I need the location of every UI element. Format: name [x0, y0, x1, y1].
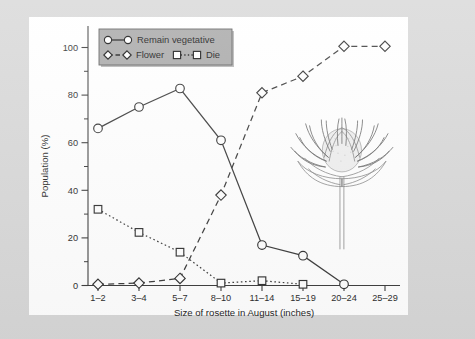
chart-legend[interactable]: Remain vegetative Flower Die: [99, 29, 234, 67]
data-point-marker: [94, 124, 103, 133]
data-point-marker: [217, 136, 226, 145]
y-tick-label: 60: [68, 138, 78, 148]
data-point-marker: [258, 241, 267, 250]
legend-label: Flower: [136, 49, 164, 60]
data-point-marker: [340, 280, 349, 289]
figure-root: 0 20 40 60 80 100 Population (%) 1–2 3–4: [0, 0, 475, 339]
thistle-flower-icon: [291, 118, 393, 249]
data-point-marker: [299, 251, 308, 260]
legend-item-die[interactable]: Die: [173, 49, 220, 60]
x-tick-label: 8–10: [211, 293, 231, 303]
data-point-marker: [216, 190, 226, 200]
open-circle-icon: [124, 36, 131, 43]
data-point-marker: [134, 278, 144, 288]
x-tick-label: 20–24: [331, 293, 357, 303]
data-point-marker: [175, 273, 185, 283]
y-tick-label: 0: [73, 281, 78, 291]
data-point-marker: [135, 229, 143, 237]
y-tick-label: 40: [68, 186, 78, 196]
data-point-marker: [380, 41, 390, 51]
data-point-marker: [176, 84, 185, 93]
open-square-icon: [193, 51, 200, 58]
x-tick-label: 25–29: [372, 293, 398, 303]
x-tick-label: 5–7: [172, 293, 187, 303]
data-point-marker: [93, 279, 103, 289]
legend-label: Remain vegetative: [137, 34, 215, 45]
x-axis: 1–2 3–4 5–7 8–10 11–14 15–19 20–24 25–29…: [88, 286, 400, 319]
open-square-icon: [173, 51, 180, 58]
y-tick-label: 100: [63, 43, 78, 53]
y-axis-title: Population (%): [39, 135, 50, 198]
data-point-marker: [135, 103, 144, 112]
data-point-marker: [299, 281, 307, 289]
y-tick-label: 80: [68, 90, 78, 100]
data-point-marker: [339, 41, 349, 51]
x-axis-title: Size of rosette in August (inches): [174, 307, 314, 318]
data-point-marker: [298, 71, 308, 81]
x-tick-label: 1–2: [90, 293, 105, 303]
y-axis: 0 20 40 60 80 100 Population (%): [39, 26, 88, 291]
data-point-marker: [258, 277, 266, 285]
line-chart: 0 20 40 60 80 100 Population (%) 1–2 3–4: [0, 0, 475, 339]
x-tick-label: 15–19: [290, 293, 316, 303]
data-point-marker: [94, 206, 102, 214]
data-point-marker: [257, 88, 267, 98]
x-tick-label: 11–14: [250, 293, 275, 303]
data-point-marker: [176, 248, 184, 256]
legend-label: Die: [206, 49, 220, 60]
open-circle-icon: [104, 36, 111, 43]
series-die: [94, 206, 307, 289]
x-tick-label: 3–4: [131, 293, 146, 303]
y-tick-label: 20: [68, 233, 78, 243]
data-point-marker: [217, 279, 225, 287]
series-remain-vegetative: [94, 84, 349, 288]
